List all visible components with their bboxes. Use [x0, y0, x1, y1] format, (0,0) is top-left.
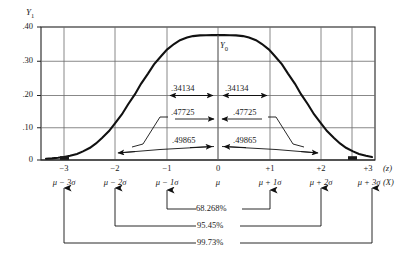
- z-tick-zero: 0: [203, 164, 233, 173]
- y-tick-010: .10: [13, 123, 33, 132]
- bracket-label-one-sigma: 68.268%: [196, 204, 226, 213]
- y-tick-030: .30: [13, 56, 33, 65]
- z-tick-minus3: −3: [49, 164, 79, 173]
- annotation-sigma2-right: .47725: [233, 108, 256, 117]
- normal-distribution-figure: Y1 .40 .30 .20 .10 0 Y0 .34134 .34134 .4…: [0, 0, 406, 265]
- z-tick-plus3: +3: [353, 164, 383, 173]
- sigma3-left-inner-arrowhead: [190, 147, 212, 148]
- y-axis-title: Y1: [26, 8, 34, 19]
- y-tick-020: .20: [13, 90, 33, 99]
- horizontal-gridlines: [41, 61, 375, 128]
- z-tick-minus2: −2: [100, 164, 130, 173]
- plot-frame: [41, 27, 375, 160]
- sigma3-right-inner-arrowhead: [224, 147, 246, 148]
- normal-curve: [46, 35, 372, 159]
- bracket-label-three-sigma: 99.73%: [197, 238, 223, 247]
- x-tick-mu-plus-2sigma: μ + 2σ: [297, 178, 345, 187]
- x-tick-mu-minus-1sigma: μ − 1σ: [143, 178, 191, 187]
- y-tick-000: 0: [13, 155, 33, 164]
- annotation-sigma1-right: .34134: [225, 84, 248, 93]
- x-tick-mu-plus-1sigma: μ + 1σ: [246, 178, 294, 187]
- vertical-gridlines: [64, 27, 352, 160]
- annotation-sigma1-left: .34134: [171, 84, 194, 93]
- y-tick-040: .40: [13, 22, 33, 31]
- x-axis-name: (X): [383, 178, 394, 187]
- y-axis-ticks: [37, 27, 41, 160]
- curve-base-marker-left: [60, 156, 69, 160]
- curve-base-marker-right: [348, 156, 357, 160]
- annotation-sigma3-right: .49865: [233, 136, 256, 145]
- z-tick-plus2: +2: [306, 164, 336, 173]
- annotation-sigma3-left: .49865: [172, 136, 195, 145]
- x-tick-mu-minus-2sigma: μ − 2σ: [91, 178, 139, 187]
- z-tick-minus1: −1: [152, 164, 182, 173]
- z-axis-name: (z): [383, 164, 392, 173]
- sigma2-right-leader: [268, 117, 304, 147]
- sigma2-left-leader: [132, 117, 168, 147]
- peak-label: Y0: [220, 41, 228, 52]
- bracket-label-two-sigma: 95.45%: [197, 221, 223, 230]
- x-tick-mu-minus-3sigma: μ − 3σ: [40, 178, 88, 187]
- annotation-sigma2-left: .47725: [171, 108, 194, 117]
- bracket-three-sigma: [64, 188, 372, 243]
- z-tick-plus1: +1: [255, 164, 285, 173]
- x-tick-mu: μ: [194, 178, 242, 187]
